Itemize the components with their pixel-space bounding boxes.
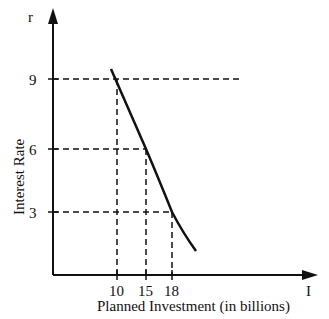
- y-axis-title: Interest Rate: [11, 138, 27, 215]
- y-tick-label-9: 9: [29, 72, 37, 88]
- x-tick-label-15: 15: [138, 283, 153, 299]
- x-tick-label-18: 18: [164, 283, 179, 299]
- x-axis-title: Planned Investment (in billions): [97, 298, 290, 315]
- y-tick-label-3: 3: [29, 205, 37, 221]
- x-tick-label-10: 10: [109, 283, 124, 299]
- x-axis-arrow-icon: [302, 270, 318, 280]
- investment-demand-curve: [111, 69, 196, 251]
- y-tick-label-6: 6: [29, 142, 37, 158]
- investment-demand-chart: r I I 9 6 3 10 15 18 Planned Investment …: [0, 0, 329, 319]
- y-axis-arrow-icon: [48, 8, 58, 24]
- y-axis-symbol: r: [28, 9, 33, 25]
- x-axis-symbol-label: I: [306, 283, 311, 299]
